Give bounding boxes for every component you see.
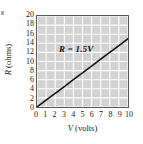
equation-annotation: R = 1.5V [59, 44, 93, 54]
y-axis-title: R (ohms) [4, 30, 13, 90]
y-tick-label: 10 [20, 58, 34, 66]
y-tick-label: 20 [20, 11, 34, 19]
plot-area [36, 15, 129, 108]
x-axis-title: V (volts) [36, 124, 129, 133]
y-tick-label: 18 [20, 20, 34, 28]
y-tick-label: 2 [20, 95, 34, 103]
cropped-figure-label-artifact [1, 11, 4, 15]
x-axis-title-unit: (volts) [75, 123, 97, 133]
y-axis-title-symbol: R [3, 70, 13, 75]
y-tick-label: 12 [20, 48, 34, 56]
x-axis-tick-labels: 012345678910 [0, 111, 143, 123]
data-line-layer [37, 16, 128, 107]
y-axis-title-unit: (ohms) [3, 44, 13, 68]
y-tick-label: 6 [20, 76, 34, 84]
figure-container: 02468101214161820 012345678910 R (ohms) … [0, 0, 143, 144]
y-tick-label: 14 [20, 39, 34, 47]
y-tick-label: 8 [20, 67, 34, 75]
x-tick-label: 10 [123, 111, 135, 119]
y-tick-label: 4 [20, 85, 34, 93]
y-tick-label: 16 [20, 30, 34, 38]
